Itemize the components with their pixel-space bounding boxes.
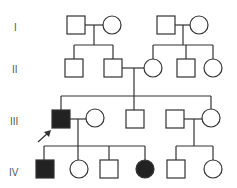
- individual-I-3-male: [157, 16, 175, 34]
- individual-IV-2-female: [70, 160, 88, 178]
- individual-II-4-male: [177, 59, 195, 77]
- pedigree-chart: [0, 0, 237, 188]
- individual-II-2-male: [104, 59, 122, 77]
- individual-IV-1-male-affected: [36, 160, 54, 178]
- arrow-icon: [38, 130, 51, 142]
- individual-I-1-male: [67, 16, 85, 34]
- individual-II-1-male: [65, 59, 83, 77]
- individual-III-3-male: [126, 110, 144, 128]
- individual-III-1-male-affected-proband: [52, 110, 70, 128]
- individual-III-2-female: [86, 109, 104, 127]
- individual-IV-5-male: [167, 160, 185, 178]
- individual-IV-3-male: [100, 160, 118, 178]
- individual-III-4-male: [166, 110, 184, 128]
- individual-IV-4-female-affected: [136, 160, 154, 178]
- individual-II-5-female: [204, 59, 222, 77]
- individual-III-5-female: [202, 109, 220, 127]
- individual-IV-6-female: [204, 160, 222, 178]
- individual-II-3-female: [144, 59, 162, 77]
- individual-I-4-female: [190, 16, 208, 34]
- individual-I-2-female: [103, 16, 121, 34]
